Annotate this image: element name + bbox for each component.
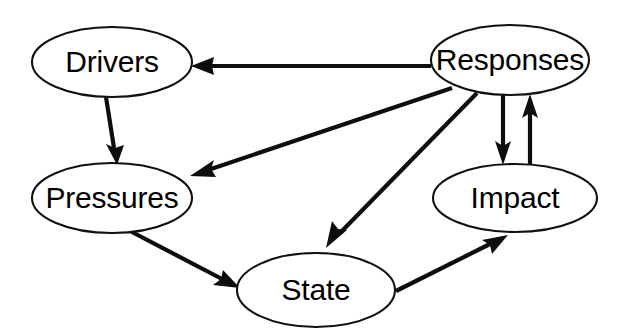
edge-pressures-to-state — [130, 231, 240, 288]
arrowhead-state-top — [326, 221, 347, 248]
arrowhead-drivers — [191, 57, 214, 75]
edge-line-pressures-state — [130, 231, 222, 279]
edge-responses-to-drivers — [191, 57, 431, 75]
arrowhead-state-left — [213, 270, 240, 288]
edge-responses-to-state — [326, 93, 477, 248]
edge-state-to-impact — [396, 235, 508, 291]
responses-label: Responses — [436, 43, 584, 76]
impact-label: Impact — [471, 181, 561, 214]
edge-line-drivers-pressures — [106, 97, 114, 148]
drivers-label: Drivers — [65, 45, 159, 78]
node-state[interactable]: State — [237, 253, 395, 327]
node-impact[interactable]: Impact — [433, 164, 597, 232]
node-responses[interactable]: Responses — [431, 25, 589, 95]
edge-line-state-impact — [396, 244, 490, 291]
edge-drivers-to-pressures — [106, 97, 124, 165]
edge-impact-to-responses — [522, 94, 538, 164]
edge-responses-to-impact — [495, 92, 511, 165]
diagram-canvas: Drivers Responses Pressures Impact State — [0, 0, 619, 335]
node-pressures[interactable]: Pressures — [32, 163, 192, 233]
dpsir-diagram: Drivers Responses Pressures Impact State — [0, 0, 619, 335]
edge-responses-to-pressures — [190, 88, 452, 177]
state-label: State — [281, 273, 350, 306]
node-drivers[interactable]: Drivers — [32, 27, 192, 97]
pressures-label: Pressures — [45, 181, 178, 214]
